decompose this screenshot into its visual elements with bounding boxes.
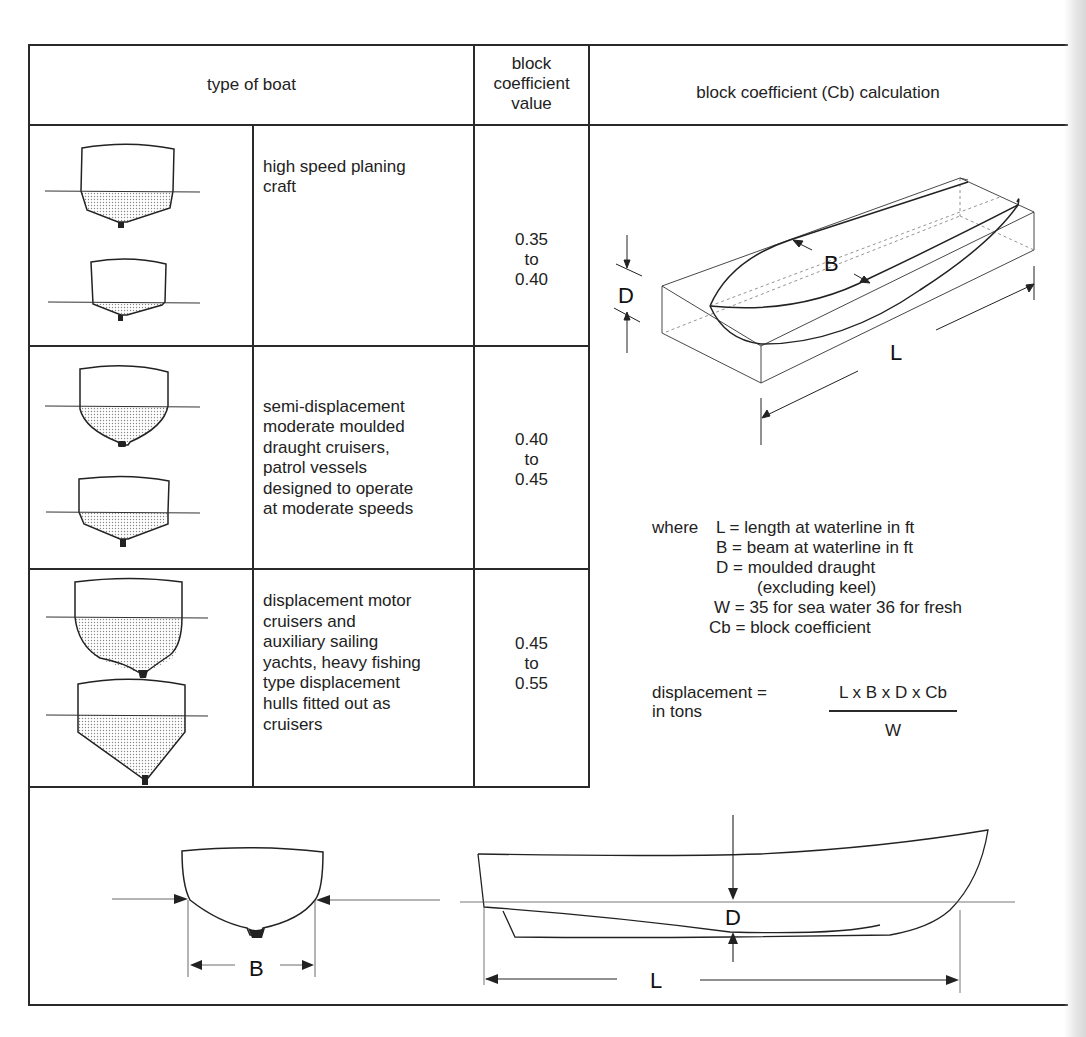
definition-d: D = moulded draught: [716, 558, 875, 578]
row-coefficient-value: 0.35 to 0.40: [475, 230, 588, 290]
header-type-of-boat: type of boat: [30, 75, 473, 95]
table-top-border: [28, 44, 1068, 46]
formula-lhs: displacement =: [652, 683, 767, 702]
profile-draught-label: D: [725, 905, 741, 930]
length-label: L: [890, 340, 902, 365]
planing-hull-section-icon: [30, 126, 250, 346]
definition-l: L = length at waterline in ft: [716, 518, 914, 538]
page-edge-shadow: [1064, 0, 1086, 1037]
formula-denominator: W: [829, 721, 957, 740]
formula-numerator: L x B x D x Cb: [829, 683, 957, 702]
section-beam-label: B: [249, 956, 264, 981]
col-divider-value-calc: [588, 44, 590, 788]
fraction-bar: [829, 710, 957, 712]
displacement-hull-section-icon: [30, 570, 250, 788]
definition-cb: Cb = block coefficient: [709, 618, 871, 638]
block-coefficient-box-diagram: B D L: [600, 150, 1060, 450]
beam-label: B: [824, 251, 839, 276]
definition-d-note: (excluding keel): [757, 578, 876, 598]
header-coefficient-value: block coefficient value: [475, 54, 588, 114]
hull-cross-section-beam-diagram: B: [100, 810, 440, 1000]
col-divider-image-desc: [252, 124, 254, 788]
where-label: where: [652, 518, 698, 538]
hull-profile-length-draught-diagram: D L: [460, 810, 1040, 1000]
formula-lhs-units: in tons: [652, 702, 702, 721]
table-bottom-border: [28, 1004, 1068, 1006]
semi-displacement-hull-section-icon: [30, 347, 250, 569]
row-coefficient-value: 0.45 to 0.55: [475, 634, 588, 694]
definition-w: W = 35 for sea water 36 for fresh: [714, 598, 962, 618]
row-description: high speed planing craft: [263, 157, 468, 197]
row-description: semi-displacement moderate moulded draug…: [263, 397, 473, 519]
profile-length-label: L: [650, 968, 662, 993]
header-calculation: block coefficient (Cb) calculation: [590, 83, 1046, 103]
row-coefficient-value: 0.40 to 0.45: [475, 430, 588, 490]
row-description: displacement motor cruisers and auxiliar…: [263, 591, 473, 735]
definition-b: B = beam at waterline in ft: [716, 538, 913, 558]
draught-label: D: [618, 283, 634, 308]
